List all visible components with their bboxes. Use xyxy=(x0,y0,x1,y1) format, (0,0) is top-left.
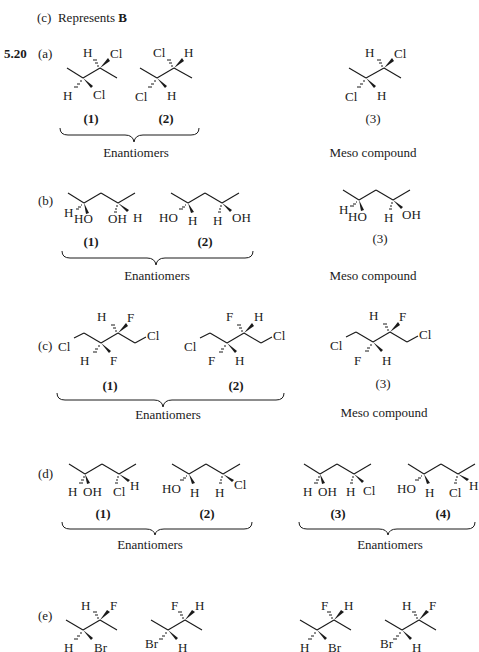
atom-label: Cl xyxy=(93,87,106,102)
structure-a1: H Cl H Cl xyxy=(63,45,123,103)
structures-canvas: H Cl H Cl (1) Cl H Cl H (2) Enantiomers … xyxy=(0,0,479,652)
atom-label: F xyxy=(110,353,117,368)
structure-d4: HO H Cl H xyxy=(397,464,478,500)
atom-label: F xyxy=(110,598,117,613)
atom-label: HO xyxy=(159,210,178,225)
compound-id: (1) xyxy=(95,506,110,521)
atom-label: H xyxy=(412,640,421,652)
group-caption: Enantiomers xyxy=(124,268,190,283)
atom-label: H xyxy=(365,45,374,60)
atom-label: F xyxy=(226,309,233,324)
grouping-brace xyxy=(60,128,199,142)
atom-label: F xyxy=(399,309,406,324)
atom-label: H xyxy=(68,484,77,499)
structure-b2: HO H H OH xyxy=(159,193,251,228)
atom-label: F xyxy=(429,598,436,613)
atom-label: Cl xyxy=(135,89,148,104)
atom-label: H xyxy=(80,353,89,368)
atom-label: Cl xyxy=(394,46,407,61)
atom-label: Cl xyxy=(234,477,247,492)
group-caption: Meso compound xyxy=(340,405,428,420)
structure-e1: H F H Br xyxy=(64,598,117,652)
atom-label: H xyxy=(402,598,411,613)
compound-id: (3) xyxy=(365,111,380,126)
structure-a2: Cl H Cl H xyxy=(135,45,193,104)
compound-id: (2) xyxy=(199,506,214,521)
atom-label: H xyxy=(469,478,478,493)
atom-label: Br xyxy=(94,640,108,652)
structure-c2: Cl F H F H Cl xyxy=(184,309,286,368)
structure-c1: Cl H F H F Cl xyxy=(58,309,160,368)
structure-c3: Cl H F F H Cl xyxy=(330,308,432,368)
atom-label: H xyxy=(377,88,386,103)
atom-label: H xyxy=(425,485,434,500)
atom-label: H xyxy=(303,484,312,499)
atom-label: H xyxy=(300,640,309,652)
compound-id: (2) xyxy=(197,234,212,249)
atom-label: Cl xyxy=(273,328,286,343)
atom-label: H xyxy=(213,213,222,228)
atom-label: H xyxy=(190,485,199,500)
atom-label: H xyxy=(64,205,73,220)
structure-d1: H OH Cl H xyxy=(68,464,139,499)
atom-label: H xyxy=(346,484,355,499)
grouping-brace xyxy=(62,522,252,535)
atom-label: Cl xyxy=(330,338,343,353)
structure-e2: F H Br H xyxy=(145,598,204,652)
atom-label: H xyxy=(167,88,176,103)
atom-label: HO xyxy=(397,481,416,496)
atom-label: H xyxy=(384,210,393,225)
atom-label: H xyxy=(64,640,73,652)
atom-label: H xyxy=(63,88,72,103)
atom-label: Cl xyxy=(449,485,462,500)
compound-id: (2) xyxy=(228,378,243,393)
atom-label: F xyxy=(127,310,134,325)
atom-label: H xyxy=(339,202,348,217)
atom-label: H xyxy=(188,213,197,228)
structure-e4: H F Br H xyxy=(380,598,436,652)
structure-d3: H OH H Cl xyxy=(303,464,376,499)
atom-label: H xyxy=(344,598,353,613)
atom-label: Br xyxy=(145,636,159,651)
structure-b1: H HO OH H xyxy=(64,193,142,226)
structure-e3: F H H Br xyxy=(300,598,353,652)
atom-label: H xyxy=(130,478,139,493)
compound-id: (3) xyxy=(372,231,387,246)
atom-label: HO xyxy=(348,209,367,224)
atom-label: F xyxy=(208,353,215,368)
compound-id: (2) xyxy=(158,111,173,126)
structure-a3: H Cl Cl H xyxy=(345,45,407,104)
group-caption: Meso compound xyxy=(329,268,417,283)
atom-label: Cl xyxy=(363,483,376,498)
atom-label: H xyxy=(215,485,224,500)
grouping-brace xyxy=(299,522,475,535)
compound-id: (3) xyxy=(375,376,390,391)
atom-label: F xyxy=(321,598,328,613)
compound-id: (1) xyxy=(83,234,98,249)
group-caption: Enantiomers xyxy=(117,537,183,552)
group-caption: Enantiomers xyxy=(357,537,423,552)
atom-label: Cl xyxy=(110,46,123,61)
atom-label: HO xyxy=(74,211,93,226)
atom-label: H xyxy=(195,598,204,613)
atom-label: Cl xyxy=(153,45,166,60)
structure-b3: H HO H OH xyxy=(339,190,421,225)
compound-id: (3) xyxy=(330,506,345,521)
atom-label: Cl xyxy=(113,484,126,499)
atom-label: H xyxy=(235,353,244,368)
atom-label: H xyxy=(83,45,92,60)
atom-label: Cl xyxy=(147,328,160,343)
atom-label: H xyxy=(97,309,106,324)
atom-label: H xyxy=(254,309,263,324)
compound-id: (1) xyxy=(102,378,117,393)
atom-label: OH xyxy=(402,207,421,222)
structure-d2: HO H H Cl xyxy=(162,464,247,500)
atom-label: OH xyxy=(318,484,337,499)
atom-label: H xyxy=(133,210,142,225)
group-caption: Enantiomers xyxy=(135,407,201,422)
grouping-brace xyxy=(57,393,284,407)
atom-label: Cl xyxy=(58,339,71,354)
atom-label: F xyxy=(171,598,178,613)
atom-label: H xyxy=(178,640,187,652)
group-caption: Meso compound xyxy=(329,145,417,160)
